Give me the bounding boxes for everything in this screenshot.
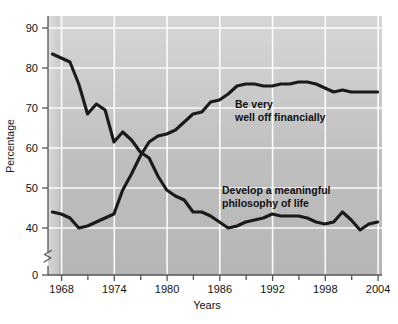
ytick-label-80: 80 bbox=[26, 62, 38, 74]
xtick-label-2004: 2004 bbox=[366, 283, 390, 295]
ytick-label-50: 50 bbox=[26, 182, 38, 194]
ytick-label-90: 90 bbox=[26, 22, 38, 34]
xtick-label-1980: 1980 bbox=[155, 283, 179, 295]
percentage-vs-years-line-chart: 90 80 70 60 50 40 0 1968 1974 bbox=[0, 0, 398, 324]
xtick-label-1992: 1992 bbox=[260, 283, 284, 295]
chart-figure: 90 80 70 60 50 40 0 1968 1974 bbox=[0, 0, 398, 324]
annotation-philosophy-line2: philosophy of life bbox=[222, 197, 309, 209]
plot-area-background bbox=[48, 16, 382, 275]
annotation-financial-line1: Be very bbox=[235, 98, 273, 110]
ytick-label-60: 60 bbox=[26, 142, 38, 154]
ytick-label-40: 40 bbox=[26, 222, 38, 234]
xtick-label-1974: 1974 bbox=[102, 283, 126, 295]
y-axis-title: Percentage bbox=[4, 119, 16, 173]
x-axis-title: Years bbox=[193, 299, 221, 311]
ytick-label-0: 0 bbox=[32, 269, 38, 281]
xtick-label-1986: 1986 bbox=[208, 283, 232, 295]
xtick-label-1998: 1998 bbox=[313, 283, 337, 295]
xtick-label-1968: 1968 bbox=[49, 283, 73, 295]
annotation-philosophy-line1: Develop a meaningful bbox=[222, 184, 331, 196]
annotation-financial-line2: well off financially bbox=[234, 111, 326, 123]
ytick-label-70: 70 bbox=[26, 102, 38, 114]
